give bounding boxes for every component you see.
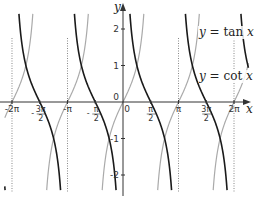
legend-tan: y = tan x (198, 25, 254, 39)
x-tick-frac-numerator: 3π (201, 105, 211, 114)
x-tick-frac-sign: - (87, 109, 90, 118)
x-tick-frac-denominator: 2 (38, 114, 43, 123)
y-tick-label: 1 (113, 61, 119, 71)
x-tick-label: π (176, 104, 182, 114)
legend-tan-eq: = tan (206, 25, 247, 39)
x-tick-frac-numerator: π (148, 105, 153, 114)
x-tick-label: 0 (124, 104, 130, 114)
series-cot-branch (241, 14, 248, 68)
x-tick-label: -π (63, 104, 72, 114)
x-tick-frac-sign: - (31, 109, 34, 118)
y-tick-label: 0 (113, 92, 119, 102)
y-axis-arrow-icon (120, 3, 126, 11)
legend-cot-eq: = cot (206, 69, 246, 83)
x-tick-label: -2π (5, 104, 20, 114)
legend-cot: y = cot x (198, 69, 253, 83)
y-tick-label: -2 (110, 170, 119, 180)
y-axis-label: y (113, 0, 121, 14)
chart: x y -2π3π2--ππ2-0π2π3π22π210-1-2 y = tan… (0, 0, 257, 202)
legend-cot-x: x (246, 69, 253, 83)
x-axis-label: x (246, 102, 253, 116)
legend-tan-x: x (247, 25, 254, 39)
x-tick-frac-numerator: 3π (36, 105, 46, 114)
x-tick-frac-denominator: 2 (94, 114, 99, 123)
x-tick-frac-denominator: 2 (204, 114, 209, 123)
x-tick-frac-numerator: π (94, 105, 99, 114)
y-tick-label: 2 (113, 24, 119, 34)
x-tick-frac-denominator: 2 (148, 114, 153, 123)
x-tick-label: 2π (228, 104, 240, 114)
y-tick-label: -1 (110, 134, 119, 144)
